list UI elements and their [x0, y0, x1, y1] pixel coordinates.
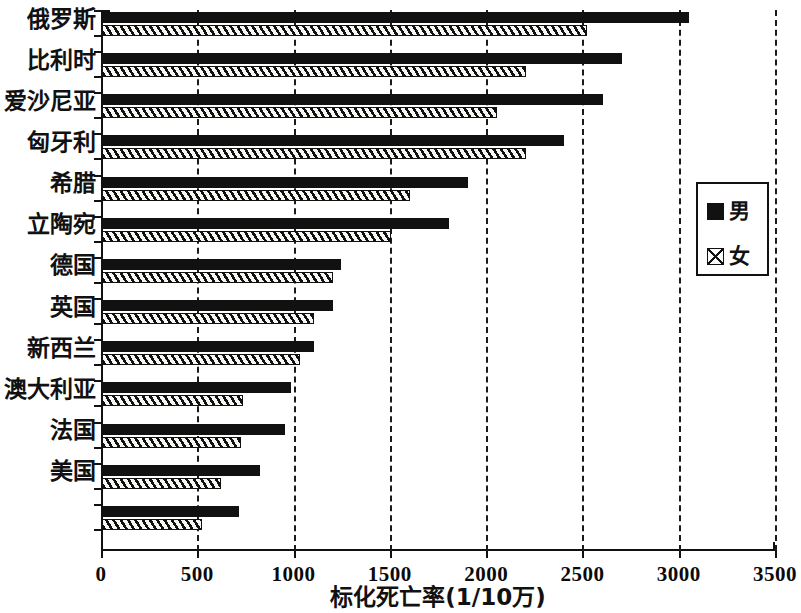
bar-male	[102, 300, 333, 311]
gridline	[775, 10, 777, 551]
y-axis-label: 爱沙尼亚	[4, 82, 96, 116]
x-tick	[197, 551, 199, 558]
bar-female	[102, 478, 221, 489]
bar-male	[102, 218, 449, 229]
bar-male	[102, 135, 564, 146]
y-tick	[94, 447, 101, 449]
y-axis-label: 俄罗斯	[27, 0, 96, 34]
y-tick	[94, 35, 101, 37]
bar-female	[102, 272, 333, 283]
bar-female	[102, 313, 314, 324]
bar-male	[102, 465, 260, 476]
legend-label-male: 男	[729, 201, 750, 222]
bar-male	[102, 341, 314, 352]
y-tick	[94, 422, 101, 424]
y-tick	[94, 257, 101, 259]
y-tick	[94, 158, 101, 160]
gridline	[582, 10, 584, 551]
bar-chart: 俄罗斯比利时爱沙尼亚匈牙利希腊立陶宛德国英国新西兰澳大利亚法国美国 050010…	[0, 0, 801, 613]
y-tick	[94, 380, 101, 382]
y-axis-label: 匈牙利	[27, 123, 96, 157]
y-tick	[94, 488, 101, 490]
y-tick	[94, 51, 101, 53]
y-tick	[94, 76, 101, 78]
y-axis-label: 澳大利亚	[4, 370, 96, 404]
bar-male	[102, 382, 291, 393]
bar-female	[102, 148, 526, 159]
bar-female	[102, 354, 300, 365]
y-axis-label: 新西兰	[27, 329, 96, 363]
y-tick	[94, 216, 101, 218]
plot-area: 0500100015002000250030003500	[101, 10, 775, 551]
x-tick	[390, 551, 392, 558]
legend-label-female: 女	[729, 246, 750, 267]
bar-male	[102, 259, 341, 270]
y-axis-label: 英国	[50, 288, 96, 322]
y-tick	[94, 92, 101, 94]
bar-male	[102, 424, 285, 435]
gridline	[486, 10, 488, 551]
gridline	[390, 10, 392, 551]
y-axis-label: 比利时	[27, 41, 96, 75]
x-tick	[679, 551, 681, 558]
legend-item-male: 男	[707, 201, 750, 222]
y-axis-label: 德国	[50, 246, 96, 280]
y-tick	[94, 133, 101, 135]
x-tick	[294, 551, 296, 558]
bar-female	[102, 25, 587, 36]
y-tick	[94, 117, 101, 119]
bar-male	[102, 177, 468, 188]
bar-male	[102, 94, 603, 105]
x-axis-line	[101, 549, 775, 551]
y-tick	[94, 10, 101, 12]
y-tick	[94, 463, 101, 465]
y-tick	[94, 364, 101, 366]
x-tick	[101, 551, 103, 558]
legend-swatch-male-icon	[707, 203, 724, 220]
bar-male	[102, 12, 689, 23]
legend-item-female: 女	[707, 246, 750, 267]
bar-female	[102, 395, 243, 406]
bar-male	[102, 506, 239, 517]
y-tick	[94, 200, 101, 202]
y-tick	[94, 282, 101, 284]
bar-female	[102, 231, 391, 242]
x-axis-title: 标化死亡率(1/10万)	[101, 578, 775, 612]
legend-swatch-female-icon	[707, 248, 724, 265]
y-tick	[94, 241, 101, 243]
legend: 男 女	[696, 182, 769, 276]
x-tick	[486, 551, 488, 558]
y-tick	[94, 339, 101, 341]
bar-male	[102, 53, 622, 64]
bar-female	[102, 437, 241, 448]
x-tick	[582, 551, 584, 558]
y-tick	[94, 405, 101, 407]
y-tick	[94, 175, 101, 177]
y-axis-label: 希腊	[50, 164, 96, 198]
y-axis-label: 美国	[50, 452, 96, 486]
y-tick	[94, 323, 101, 325]
bar-female	[102, 519, 202, 530]
bar-female	[102, 107, 497, 118]
y-tick	[94, 298, 101, 300]
y-tick	[94, 504, 101, 506]
bar-female	[102, 66, 526, 77]
y-tick	[94, 529, 101, 531]
bar-female	[102, 190, 410, 201]
gridline	[679, 10, 681, 551]
y-axis-label: 立陶宛	[27, 205, 96, 239]
x-tick	[775, 551, 777, 558]
y-axis-label: 法国	[50, 411, 96, 445]
